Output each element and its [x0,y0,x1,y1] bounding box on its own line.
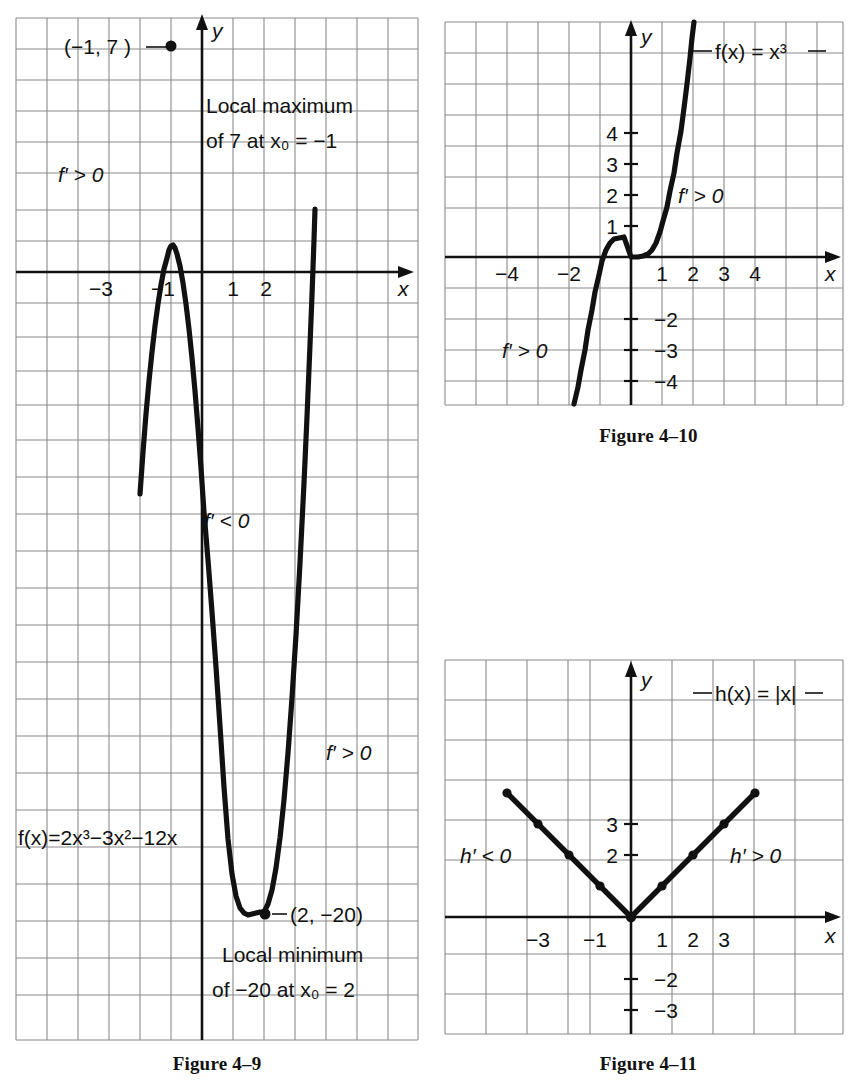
y-tick-label-1: 1 [606,215,618,238]
y-axis-arrow [196,14,208,30]
x-tick-label-3: 3 [718,928,730,951]
x-tick-label-1: 1 [656,928,668,951]
x-tick-label-1: 1 [656,262,668,285]
x-tick-label-1: 1 [227,277,239,300]
function-label: f(x)=2x³−3x²−12x [18,826,178,849]
leader-lines [146,47,287,914]
figure-4-10-caption: Figure 4–10 [440,425,857,447]
y-tick-label--2: −2 [654,308,678,331]
x-tick-label-4: 4 [749,262,761,285]
annotation-max-point: (−1, 7 ) [64,35,131,58]
x-axis-label: x [824,924,837,947]
x-tick-label--4: −4 [495,262,519,285]
annotation-deriv-neg-mid: f′ < 0 [204,509,250,532]
annotation-deriv-pos-left: f′ > 0 [58,163,104,186]
x-tick-label--2: −2 [557,262,581,285]
x-tick-label--3: −3 [89,277,113,300]
curve-f [140,209,315,915]
annotation-deriv-pos: h′ > 0 [730,844,782,867]
figure-4-10: x y 4 3 2 1 −2 −3 −4 −4 −2 1 2 3 4 f(x) … [440,0,857,415]
x-tick-label-2: 2 [260,277,272,300]
function-label: f(x) = x³ [715,40,787,63]
annotation-max-text-line2: of 7 at x₀ = −1 [206,129,337,152]
y-axis-label: y [210,19,224,42]
y-tick-label-4: 4 [606,122,618,145]
annotation-min-text-line1: Local minimum [222,943,363,966]
x-tick-label--3: −3 [526,928,550,951]
y-tick-label-3: 3 [606,813,618,836]
y-axis-label: y [639,668,653,691]
y-tick-label--3: −3 [654,999,678,1022]
x-tick-label--1: −1 [583,928,607,951]
figure-4-9-caption: Figure 4–9 [0,1053,434,1075]
y-tick-label--4: −4 [654,370,678,393]
y-tick-label-2: 2 [606,844,618,867]
y-axis-arrow [625,661,637,677]
annotation-deriv-pos-lower: f′ > 0 [502,339,548,362]
y-tick-label--2: −2 [654,968,678,991]
figure-4-9: x y −3 −1 1 2 (−1, 7 ) Local maximum of … [0,0,440,1050]
annotation-max-text-line1: Local maximum [206,94,353,117]
figure-4-11: x y 3 2 −2 −3 −3 −1 1 2 [440,655,857,1045]
x-axis-arrow [825,911,841,923]
annotation-min-point: (2, −20) [290,903,363,926]
y-tick-label-2: 2 [606,184,618,207]
x-tick-label-2: 2 [687,928,699,951]
x-tick-label-3: 3 [718,262,730,285]
x-axis-label: x [397,277,410,300]
local-max-point [166,41,177,52]
figure-4-11-plot: x y 3 2 −2 −3 −3 −1 1 2 [440,655,857,1045]
annotation-min-text-line2: of −20 at x₀ = 2 [212,978,355,1001]
annotation-deriv-neg: h′ < 0 [460,844,512,867]
figure-4-11-caption: Figure 4–11 [440,1053,857,1075]
x-axis-label: x [824,262,837,285]
local-min-point [260,909,271,920]
y-tick-label-3: 3 [606,153,618,176]
y-axis-label: y [639,25,653,48]
annotation-deriv-pos-right: f′ > 0 [326,741,372,764]
y-tick-label--3: −3 [654,339,678,362]
annotation-deriv-pos-upper: f′ > 0 [678,184,724,207]
figure-4-9-plot: x y −3 −1 1 2 (−1, 7 ) Local maximum of … [0,0,440,1050]
function-label: h(x) = |x| [715,682,797,705]
figure-4-10-plot: x y 4 3 2 1 −2 −3 −4 −4 −2 1 2 3 4 f(x) … [440,0,857,415]
x-tick-label-2: 2 [687,262,699,285]
